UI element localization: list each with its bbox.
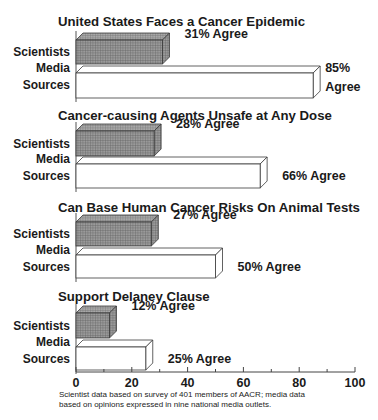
category-label-sources: Sources xyxy=(23,78,71,92)
value-label-media: 50% Agree xyxy=(238,260,302,274)
bar-media-front-face xyxy=(76,347,146,370)
x-tick-label: 40 xyxy=(181,376,195,390)
bar-scientists-top-face xyxy=(76,215,158,222)
footnote-line: Scientist data based on survey of 401 me… xyxy=(59,390,305,399)
footnote-line: based on opinions expressed in nine nati… xyxy=(59,400,271,409)
bar-media xyxy=(76,340,153,370)
chart-panel: United States Faces a Cancer EpidemicSci… xyxy=(13,14,360,102)
bar-scientists-top-face xyxy=(76,33,169,40)
bar-scientists xyxy=(76,124,161,156)
category-label-sources: Sources xyxy=(23,352,71,366)
category-label-media: Media xyxy=(36,335,70,349)
bar-scientists xyxy=(76,306,116,338)
bar-scientists xyxy=(76,215,158,246)
bar-media-front-face xyxy=(76,73,313,98)
x-tick-label: 20 xyxy=(125,376,139,390)
category-label-sources: Sources xyxy=(23,169,71,183)
value-label-media: 85% xyxy=(325,61,350,75)
chart: United States Faces a Cancer EpidemicSci… xyxy=(0,0,378,420)
panel-title: United States Faces a Cancer Epidemic xyxy=(58,14,305,29)
category-label-scientists: Scientists xyxy=(13,137,70,151)
value-label-scientists: 28% Agree xyxy=(176,117,240,131)
value-label-scientists: 12% Agree xyxy=(131,299,195,313)
bar-scientists-front-face xyxy=(76,131,154,156)
x-tick-label: 80 xyxy=(292,376,306,390)
category-label-scientists: Scientists xyxy=(13,319,70,333)
chart-panels: United States Faces a Cancer EpidemicSci… xyxy=(13,14,360,374)
bar-scientists xyxy=(76,33,169,64)
chart-panel: Support Delaney ClauseScientistsMediaSou… xyxy=(13,289,231,374)
bar-media-top-face xyxy=(76,248,223,255)
category-label-media: Media xyxy=(36,152,70,166)
bar-media-top-face xyxy=(76,340,153,347)
bar-scientists-top-face xyxy=(76,124,161,131)
footnote: Scientist data based on survey of 401 me… xyxy=(59,390,305,409)
x-tick-label: 60 xyxy=(236,376,250,390)
category-label-media: Media xyxy=(36,243,70,257)
bar-scientists-front-face xyxy=(76,40,162,64)
value-label-scientists: 31% Agree xyxy=(184,27,248,41)
chart-panel: Cancer-causing Agents Unsafe at Any Dose… xyxy=(13,108,345,192)
bar-media-front-face xyxy=(76,255,216,278)
bar-scientists-front-face xyxy=(76,313,109,338)
bar-media-top-face xyxy=(76,66,320,73)
x-axis: 020406080100 xyxy=(73,367,366,390)
bar-media xyxy=(76,66,320,98)
chart-panel: Can Base Human Cancer Risks On Animal Te… xyxy=(13,200,360,282)
category-label-scientists: Scientists xyxy=(13,227,70,241)
bar-media-front-face xyxy=(76,164,260,188)
x-tick-label: 100 xyxy=(345,376,366,390)
value-label-media: 66% Agree xyxy=(282,169,346,183)
bar-media xyxy=(76,248,223,278)
x-tick-label: 0 xyxy=(73,376,80,390)
category-label-media: Media xyxy=(36,61,70,75)
category-label-scientists: Scientists xyxy=(13,45,70,59)
bar-media xyxy=(76,157,267,188)
value-label-media: Agree xyxy=(325,80,360,94)
value-label-scientists: 27% Agree xyxy=(173,208,237,222)
bar-scientists-front-face xyxy=(76,222,151,246)
category-label-sources: Sources xyxy=(23,260,71,274)
bar-media-top-face xyxy=(76,157,267,164)
value-label-media: 25% Agree xyxy=(168,352,232,366)
